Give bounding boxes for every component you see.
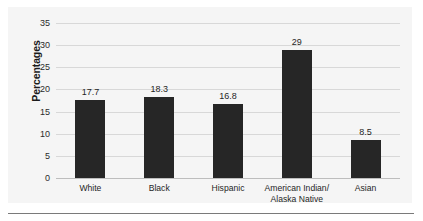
bar[interactable] — [351, 140, 381, 178]
category-label: Asian — [355, 183, 377, 194]
category-label-line: Alaska Native — [265, 194, 330, 205]
category-label-line: Black — [149, 183, 170, 194]
bar[interactable] — [282, 50, 312, 178]
bar[interactable] — [213, 104, 243, 178]
category-label: American Indian/Alaska Native — [265, 183, 330, 204]
bar-slot: 16.8Hispanic — [194, 23, 263, 178]
category-label: Hispanic — [212, 183, 245, 194]
category-label: Black — [149, 183, 170, 194]
bar-value-label: 29 — [292, 37, 302, 47]
bottom-divider — [8, 213, 414, 214]
bar-slot: 17.7White — [56, 23, 125, 178]
y-tick-label-0: 0 — [45, 173, 50, 183]
plot-area: 05101520253035 17.7White18.3Black16.8His… — [56, 23, 400, 178]
y-tick-label-25: 25 — [40, 62, 50, 72]
bar-value-label: 16.8 — [219, 91, 237, 101]
y-tick-label-30: 30 — [40, 40, 50, 50]
category-label: White — [79, 183, 101, 194]
category-label-line: Hispanic — [212, 183, 245, 194]
y-tick-label-15: 15 — [40, 107, 50, 117]
gridline-0 — [56, 178, 400, 179]
y-tick-label-20: 20 — [40, 84, 50, 94]
category-label-line: American Indian/ — [265, 183, 330, 194]
category-label-line: White — [79, 183, 101, 194]
bar-chart-figure: Percentages 05101520253035 17.7White18.3… — [0, 0, 423, 221]
bar[interactable] — [75, 100, 105, 178]
y-tick-label-35: 35 — [40, 18, 50, 28]
bar-slot: 29American Indian/Alaska Native — [262, 23, 331, 178]
y-tick-label-10: 10 — [40, 129, 50, 139]
bar-value-label: 8.5 — [359, 127, 372, 137]
bars-group: 17.7White18.3Black16.8Hispanic29American… — [56, 23, 400, 178]
bar-slot: 18.3Black — [125, 23, 194, 178]
chart-panel: Percentages 05101520253035 17.7White18.3… — [8, 7, 412, 203]
category-label-line: Asian — [355, 183, 377, 194]
bar-value-label: 17.7 — [82, 87, 100, 97]
y-tick-label-5: 5 — [45, 151, 50, 161]
bar[interactable] — [144, 97, 174, 178]
bar-value-label: 18.3 — [150, 84, 168, 94]
bar-slot: 8.5Asian — [331, 23, 400, 178]
